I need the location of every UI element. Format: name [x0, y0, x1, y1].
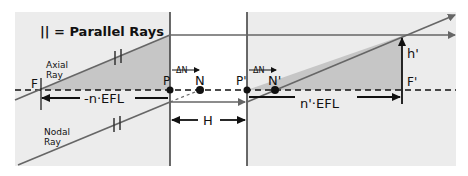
label-P-prime: P' [236, 74, 247, 88]
label-N-prime: N' [268, 73, 281, 88]
label-delta-n-rear: ΔN [253, 66, 264, 75]
legend-text: || = Parallel Rays [40, 24, 164, 39]
nodal-ray-label-1: Nodal [44, 127, 70, 137]
label-F-prime: F' [407, 75, 417, 89]
label-h-prime: h' [407, 46, 419, 61]
optics-diagram: || = Parallel Rays Axial Ray Nodal Ray F… [0, 0, 468, 176]
label-H: H [203, 113, 213, 128]
axial-ray-label-2: Ray [46, 70, 64, 80]
label-rear-focal: n'·EFL [300, 96, 340, 111]
label-delta-n-front: ΔN [176, 66, 187, 75]
nodal-ray-label-2: Ray [44, 137, 62, 147]
label-front-focal: -n·EFL [84, 91, 125, 106]
label-F: F [31, 77, 38, 91]
label-P: P [163, 74, 170, 88]
axial-ray-label-1: Axial [46, 60, 68, 70]
label-N: N [195, 73, 205, 88]
